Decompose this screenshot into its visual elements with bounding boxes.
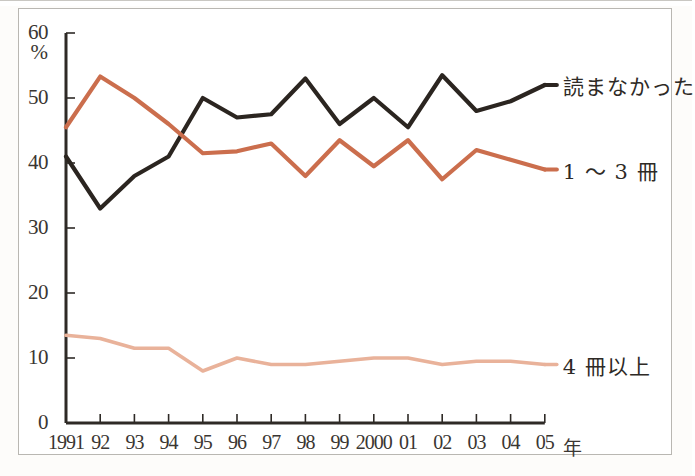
- y-axis-tick-label: 30: [8, 215, 48, 240]
- legend-label-3: 4 冊以上: [563, 350, 651, 380]
- series-line-1: [66, 75, 545, 208]
- legend-label-2: 1 〜 3 冊: [563, 155, 659, 185]
- series-line-3: [66, 335, 545, 371]
- y-axis-unit-label: %: [8, 40, 48, 65]
- y-axis-tick-label: 10: [8, 345, 48, 370]
- y-axis-tick-label: 40: [8, 150, 48, 175]
- y-axis-tick-label: 50: [8, 85, 48, 110]
- y-axis-tick-label: 20: [8, 280, 48, 305]
- x-axis-unit-label: 年: [563, 433, 582, 460]
- legend-label-1: 読まなかった: [563, 70, 695, 100]
- series-line-2: [66, 77, 545, 180]
